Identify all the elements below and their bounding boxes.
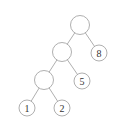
tree-diagram: 8 5 1 2 — [0, 0, 115, 123]
svg-text:1: 1 — [25, 103, 30, 114]
node-mid — [53, 43, 72, 62]
node-8: 8 — [91, 45, 107, 61]
node-low — [35, 71, 54, 90]
node-2: 2 — [54, 100, 70, 116]
node-root — [71, 16, 90, 35]
node-1: 1 — [19, 100, 35, 116]
svg-text:2: 2 — [60, 103, 65, 114]
svg-text:8: 8 — [97, 48, 102, 59]
node-5: 5 — [74, 73, 90, 89]
svg-text:5: 5 — [80, 76, 85, 87]
